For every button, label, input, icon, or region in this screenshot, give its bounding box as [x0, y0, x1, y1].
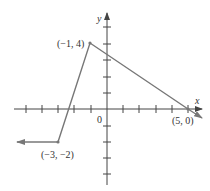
point-marker-b — [56, 140, 59, 143]
x-axis — [14, 105, 202, 113]
point-marker-c — [186, 107, 189, 110]
graph: x y 0 (−1, 4) (−3, −2) (5, 0) — [0, 0, 210, 191]
point-label-c: (5, 0) — [172, 115, 194, 127]
point-marker-a — [88, 41, 91, 44]
y-axis-label: y — [96, 13, 102, 24]
x-axis-label: x — [194, 95, 200, 106]
origin-label: 0 — [97, 114, 102, 125]
point-label-a: (−1, 4) — [57, 38, 84, 50]
point-label-b: (−3, −2) — [41, 149, 74, 161]
y-axis — [103, 13, 111, 185]
